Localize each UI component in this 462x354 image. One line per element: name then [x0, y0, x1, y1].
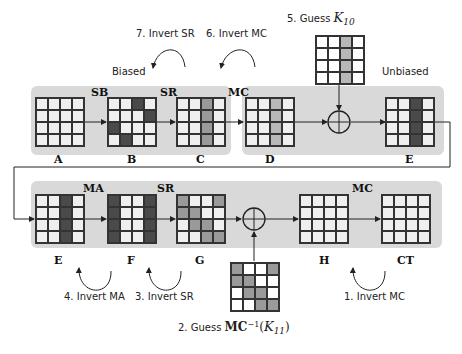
grid-cell [36, 219, 48, 231]
step-2-label: 2. Guess MC−1(K11) [178, 319, 290, 336]
grid-cell [382, 207, 394, 219]
state-label-e: E [405, 153, 413, 166]
grid-cell [282, 122, 294, 134]
op-label-mc-bottom: MC [352, 182, 373, 195]
grid-cell [300, 195, 312, 207]
grid-cell [422, 110, 434, 122]
grid-cell [267, 263, 279, 275]
grid-cell [398, 110, 410, 122]
grid-cell [201, 122, 213, 134]
grid-cell [246, 134, 258, 146]
grid-cell [36, 231, 48, 243]
grid-cell [270, 122, 282, 134]
grid-cell [48, 110, 60, 122]
grid-cell [48, 98, 60, 110]
key-grid-k10 [315, 35, 365, 85]
grid-cell [132, 207, 144, 219]
grid-cell [72, 98, 84, 110]
grid-cell [144, 195, 156, 207]
grid-cell [324, 231, 336, 243]
grid-cell [132, 98, 144, 110]
key-grid-mc-inv-k11 [230, 262, 280, 312]
grid-cell [328, 36, 340, 48]
grid-cell [108, 110, 120, 122]
grid-cell [120, 122, 132, 134]
grid-cell [316, 48, 328, 60]
grid-cell [60, 110, 72, 122]
grid-cell [324, 219, 336, 231]
grid-cell [418, 219, 430, 231]
grid-cell [328, 60, 340, 72]
step-2-prefix: 2. Guess [178, 322, 221, 333]
grid-cell [132, 195, 144, 207]
grid-cell [189, 207, 201, 219]
grid-cell [120, 207, 132, 219]
grid-cell [246, 122, 258, 134]
grid-cell [72, 195, 84, 207]
grid-cell [108, 231, 120, 243]
op-label-sb: SB [91, 86, 108, 99]
grid-cell [201, 207, 213, 219]
grid-cell [258, 122, 270, 134]
state-label-d: D [265, 153, 275, 166]
state-grid-e [385, 97, 435, 147]
grid-cell [201, 110, 213, 122]
grid-cell [316, 36, 328, 48]
grid-cell [386, 110, 398, 122]
grid-cell [410, 122, 422, 134]
grid-cell [270, 134, 282, 146]
grid-cell [246, 110, 258, 122]
grid-cell [340, 60, 352, 72]
grid-cell [312, 207, 324, 219]
grid-cell [312, 195, 324, 207]
grid-cell [48, 219, 60, 231]
grid-cell [108, 98, 120, 110]
grid-cell [177, 98, 189, 110]
grid-cell [336, 207, 348, 219]
grid-cell [177, 207, 189, 219]
grid-cell [418, 195, 430, 207]
grid-cell [255, 275, 267, 287]
grid-cell [340, 36, 352, 48]
grid-cell [108, 195, 120, 207]
grid-cell [410, 110, 422, 122]
grid-cell [189, 122, 201, 134]
step-3-label: 3. Invert SR [135, 291, 194, 302]
grid-cell [406, 195, 418, 207]
grid-cell [231, 299, 243, 311]
grid-cell [312, 219, 324, 231]
grid-cell [410, 134, 422, 146]
state-grid-f [107, 194, 157, 244]
op-label-mc-top: MC [228, 86, 249, 99]
grid-cell [132, 219, 144, 231]
grid-cell [352, 48, 364, 60]
unbiased-label: Unbiased [382, 66, 429, 77]
grid-cell [189, 98, 201, 110]
grid-cell [60, 122, 72, 134]
step-4-label: 4. Invert MA [64, 291, 125, 302]
grid-cell [243, 287, 255, 299]
grid-cell [386, 134, 398, 146]
grid-cell [48, 231, 60, 243]
grid-cell [36, 207, 48, 219]
grid-cell [394, 219, 406, 231]
grid-cell [213, 195, 225, 207]
grid-cell [132, 110, 144, 122]
grid-cell [324, 207, 336, 219]
grid-cell [336, 219, 348, 231]
grid-cell [394, 231, 406, 243]
grid-cell [144, 110, 156, 122]
grid-cell [177, 122, 189, 134]
grid-cell [255, 287, 267, 299]
grid-cell [312, 231, 324, 243]
grid-cell [328, 72, 340, 84]
grid-cell [267, 287, 279, 299]
grid-cell [300, 219, 312, 231]
grid-cell [36, 134, 48, 146]
grid-cell [108, 134, 120, 146]
grid-cell [144, 207, 156, 219]
grid-cell [213, 231, 225, 243]
grid-cell [108, 219, 120, 231]
grid-cell [382, 231, 394, 243]
state-grid-d [245, 97, 295, 147]
